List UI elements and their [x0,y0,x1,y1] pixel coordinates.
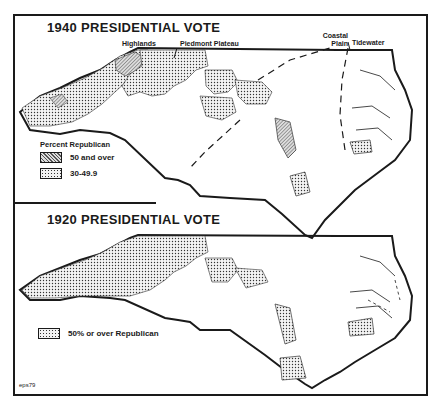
map-1940-title: 1940 PRESIDENTIAL VOTE [47,20,220,35]
coastal-hatched-1940 [275,118,296,158]
piedmont-central-1940 [205,70,238,94]
map-1920 [20,235,412,388]
legend-1920-item: 50% or over Republican [38,328,159,339]
legend-1940-label-2: 30-49.9 [70,169,97,178]
piedmont-east-1940 [235,80,272,104]
coastal-1920 [275,304,296,344]
maps-svg [0,0,437,410]
dotted-swatch-icon [38,328,60,339]
dashed-lines-1920 [368,280,400,312]
sounds-1940 [352,70,395,140]
legend-1940-item-30-49: 30-49.9 [40,168,97,179]
label-highlands: Highlands [122,40,156,47]
dotted-swatch-icon [40,168,62,179]
coastal-dotted-e-1940 [350,140,372,154]
figure-code: eps79 [19,382,35,388]
legend-1920-label: 50% or over Republican [68,329,159,338]
piedmont-south-1940 [200,96,236,120]
coastal-plain-boundary-1940 [258,48,330,80]
legend-1940-item-50-over: 50 and over [40,152,114,163]
coastal-e-1920 [348,318,374,336]
piedmont-1920 [205,258,238,282]
legend-1940-label-1: 50 and over [70,153,114,162]
legend-1940-title: Percent Republican [40,140,110,149]
hatched-swatch-icon [40,152,62,163]
coastal-sw-1920 [280,356,306,380]
map-1920-title: 1920 PRESIDENTIAL VOTE [47,212,220,227]
sounds-1920 [350,256,395,318]
label-piedmont: Piedmont Plateau [180,40,239,47]
label-tidewater: Tidewater [352,39,385,46]
piedmont-east-1920 [235,268,268,288]
tidewater-boundary-1940 [340,48,348,150]
mountain-counties-1920 [22,236,208,298]
coastal-plain-lower-1940 [190,120,240,168]
coastal-dotted-sw-1940 [290,172,310,196]
label-coastal-plain: Coastal Plain [320,32,348,48]
